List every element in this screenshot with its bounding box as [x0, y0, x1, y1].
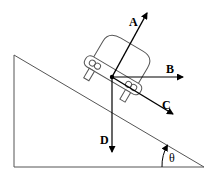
label-c: C [162, 98, 171, 112]
incline-force-diagram: A B C D θ [0, 0, 214, 181]
diagram-canvas: A B C D θ [0, 0, 214, 181]
label-d: D [100, 133, 109, 147]
angle-arc [162, 145, 168, 167]
label-b: B [166, 62, 174, 76]
label-a: A [129, 15, 138, 29]
label-theta: θ [169, 151, 175, 165]
center-of-mass-dot [110, 75, 114, 79]
